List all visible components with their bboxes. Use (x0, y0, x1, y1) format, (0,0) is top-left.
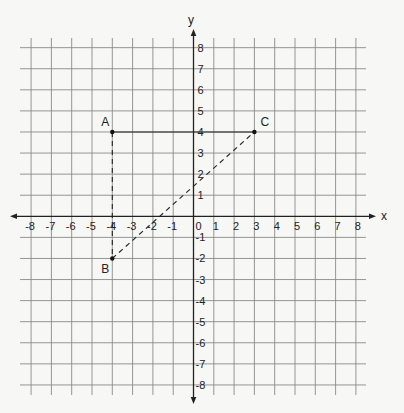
y-tick-label: -1 (196, 231, 206, 243)
coordinate-plane: x y -8-7-6-5-4-3-2-101234567887654321-1-… (0, 0, 404, 413)
y-tick-label: -4 (196, 295, 206, 307)
y-tick-label: 3 (198, 147, 204, 159)
x-tick-label: -7 (46, 220, 56, 232)
triangle-figure: ABC (101, 115, 269, 276)
y-tick-label: -7 (196, 358, 206, 370)
x-axis-label: x (381, 209, 387, 223)
y-tick-label: -6 (196, 337, 206, 349)
point-b (110, 256, 114, 260)
x-axis-right-arrow-icon (369, 214, 376, 220)
y-axis-down-arrow-icon (191, 397, 197, 404)
y-tick-label: -8 (196, 379, 206, 391)
y-tick-label: 8 (198, 42, 204, 54)
x-tick-label: -8 (25, 220, 35, 232)
x-tick-label: -6 (66, 220, 76, 232)
x-tick-label: 2 (233, 220, 239, 232)
y-tick-label: -2 (196, 252, 206, 264)
point-a (110, 130, 114, 134)
point-label-c: C (260, 115, 269, 129)
y-axis-up-arrow-icon (191, 29, 197, 36)
y-tick-label: -3 (196, 274, 206, 286)
y-tick-label: 1 (198, 189, 204, 201)
point-c (252, 130, 256, 134)
y-tick-label: 7 (198, 63, 204, 75)
y-axis-label: y (188, 13, 194, 27)
x-tick-label: -3 (127, 220, 137, 232)
x-tick-label: -1 (167, 220, 177, 232)
x-axis-left-arrow-icon (10, 214, 17, 220)
x-tick-label: 6 (314, 220, 320, 232)
x-tick-label: 1 (213, 220, 219, 232)
y-tick-label: 6 (198, 84, 204, 96)
x-tick-label: 5 (294, 220, 300, 232)
point-label-b: B (101, 262, 109, 276)
y-tick-label: 5 (198, 105, 204, 117)
x-tick-label: 3 (253, 220, 259, 232)
point-label-a: A (101, 115, 109, 129)
x-tick-label: 8 (355, 220, 361, 232)
y-tick-label: -5 (196, 316, 206, 328)
x-tick-label: 7 (335, 220, 341, 232)
x-tick-label: -4 (106, 220, 116, 232)
x-tick-label: 4 (274, 220, 280, 232)
x-tick-label: -5 (86, 220, 96, 232)
